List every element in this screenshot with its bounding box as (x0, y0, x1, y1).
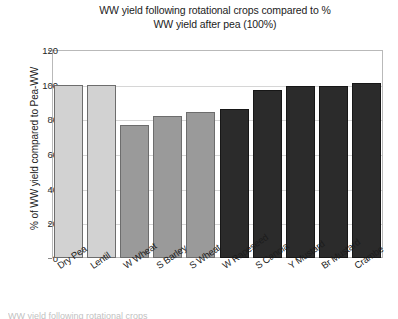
bar-chart: WW yield following rotational crops comp… (0, 0, 398, 319)
chart-title-line-2: WW yield after pea (100%) (40, 17, 390, 31)
chart-title: WW yield following rotational crops comp… (40, 3, 390, 31)
bar-br-mustard (319, 86, 348, 258)
bar-w-rapeseed (220, 109, 249, 258)
bar-s-barley (153, 116, 182, 258)
bar-crambe (352, 83, 381, 258)
bars-layer (52, 50, 383, 258)
bar-dry-pea (54, 85, 83, 258)
bar-y-mustard (286, 86, 315, 258)
bottom-caption-cut: WW yield following rotational crops (8, 311, 392, 319)
bar-s-canola (253, 90, 282, 258)
bar-s-wheat (186, 112, 215, 258)
bar-lentil (87, 85, 116, 258)
chart-title-line-1: WW yield following rotational crops comp… (40, 3, 390, 17)
y-tick-mark (48, 258, 52, 259)
bar-w-wheat (120, 125, 149, 258)
